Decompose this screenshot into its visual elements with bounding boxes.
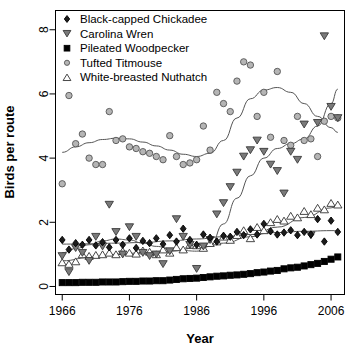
data-point	[86, 155, 92, 161]
data-point	[214, 89, 220, 95]
data-point	[241, 271, 247, 277]
data-point	[126, 144, 132, 150]
legend-item: Black-capped Chickadee	[64, 13, 207, 25]
data-point	[214, 273, 220, 279]
data-point	[314, 153, 320, 159]
legend-label: Black-capped Chickadee	[80, 13, 207, 25]
legend-label: Pileated Woodpecker	[80, 42, 189, 54]
data-point	[153, 153, 159, 159]
data-point	[160, 278, 166, 284]
data-point	[187, 275, 193, 281]
data-point	[173, 276, 179, 282]
data-point	[321, 118, 327, 124]
data-point	[86, 279, 92, 285]
data-point	[247, 271, 253, 277]
data-point	[66, 92, 72, 98]
data-point	[66, 280, 72, 286]
data-point	[93, 161, 99, 167]
y-tick-label: 8	[37, 26, 51, 33]
data-point	[267, 134, 273, 140]
data-point	[187, 160, 193, 166]
data-point	[227, 272, 233, 278]
data-point	[261, 269, 267, 275]
data-point	[173, 153, 179, 159]
data-point	[281, 266, 287, 272]
legend-item: Pileated Woodpecker	[64, 42, 189, 54]
data-point	[261, 89, 267, 95]
legend-label: Tufted Titmouse	[80, 57, 162, 69]
legend-label: White-breasted Nuthatch	[80, 71, 207, 83]
legend-item: White-breasted Nuthatch	[63, 71, 207, 83]
x-tick-label: 1976	[116, 304, 143, 318]
data-point	[321, 258, 327, 264]
x-tick-label: 2006	[318, 304, 345, 318]
data-point	[207, 274, 213, 280]
data-point	[281, 137, 287, 143]
data-point	[120, 136, 126, 142]
legend-marker	[64, 45, 70, 51]
data-point	[301, 263, 307, 269]
data-point	[167, 277, 173, 283]
x-tick-label: 1996	[250, 304, 277, 318]
bird-abundance-chart: 19661976198619962006 02468 Year Birds pe…	[0, 0, 357, 351]
y-axis-title: Birds per route	[2, 105, 17, 198]
legend-item: Tufted Titmouse	[64, 57, 162, 69]
data-point	[133, 278, 139, 284]
data-point	[153, 278, 159, 284]
data-point	[328, 256, 334, 262]
data-point	[79, 131, 85, 137]
data-point	[220, 273, 226, 279]
data-point	[240, 59, 246, 65]
data-point	[193, 157, 199, 163]
data-point	[99, 161, 105, 167]
legend-label: Carolina Wren	[80, 28, 153, 40]
data-point	[234, 272, 240, 278]
data-point	[294, 264, 300, 270]
data-point	[160, 157, 166, 163]
x-axis-title: Year	[186, 331, 213, 346]
data-point	[301, 137, 307, 143]
data-point	[59, 280, 65, 286]
data-point	[126, 278, 132, 284]
data-point	[79, 279, 85, 285]
chart-legend: Black-capped ChickadeeCarolina WrenPilea…	[63, 13, 207, 83]
data-point	[140, 278, 146, 284]
data-point	[72, 140, 78, 146]
data-point	[113, 279, 119, 285]
data-point	[180, 161, 186, 167]
data-point	[308, 262, 314, 268]
data-point	[113, 137, 119, 143]
data-point	[288, 142, 294, 148]
data-point	[207, 147, 213, 153]
y-tick-label: 0	[37, 283, 51, 290]
data-point	[328, 113, 334, 119]
data-point	[234, 78, 240, 84]
data-point	[147, 278, 153, 284]
data-point	[106, 108, 112, 114]
data-point	[194, 275, 200, 281]
chart-canvas: 19661976198619962006 02468 Year Birds pe…	[0, 0, 357, 351]
data-point	[140, 148, 146, 154]
x-tick-label: 1966	[49, 304, 76, 318]
data-point	[227, 108, 233, 114]
y-tick-label: 4	[37, 154, 51, 161]
data-point	[294, 113, 300, 119]
data-point	[254, 113, 260, 119]
y-tick-label: 2	[37, 219, 51, 226]
data-point	[120, 279, 126, 285]
x-tick-label: 1986	[183, 304, 210, 318]
data-point	[220, 100, 226, 106]
data-point	[315, 260, 321, 266]
data-point	[254, 270, 260, 276]
legend-marker	[64, 60, 69, 65]
data-point	[93, 279, 99, 285]
data-point	[247, 62, 253, 68]
data-point	[167, 132, 173, 138]
data-point	[59, 181, 65, 187]
y-tick-label: 6	[37, 90, 51, 97]
data-point	[106, 279, 112, 285]
data-point	[274, 267, 280, 273]
data-point	[200, 274, 206, 280]
data-point	[100, 279, 106, 285]
data-point	[274, 68, 280, 74]
